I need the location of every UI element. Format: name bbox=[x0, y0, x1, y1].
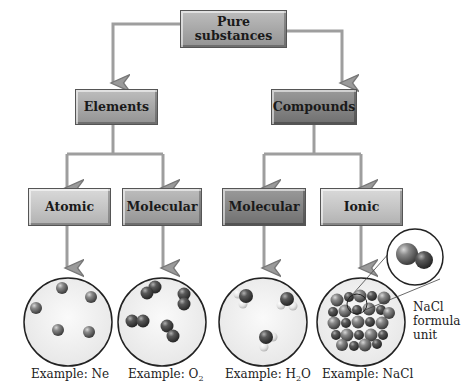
caption-prefix: Example: bbox=[31, 367, 92, 381]
atomic-example-illustration bbox=[24, 278, 112, 366]
example-o2-caption: Example: O2 bbox=[128, 367, 203, 383]
elements-label: Elements bbox=[84, 100, 149, 114]
inset-label-line2: formula bbox=[413, 314, 461, 328]
ionic-box: Ionic bbox=[320, 188, 403, 226]
molecular-elements-label: Molecular bbox=[126, 200, 197, 214]
caption-prefix: Example: bbox=[225, 367, 286, 381]
molecular-element-example-illustration bbox=[118, 278, 206, 366]
compounds-label: Compounds bbox=[273, 100, 356, 114]
caption-formula: O bbox=[189, 367, 199, 381]
pure-substances-label-line2: substances bbox=[195, 29, 272, 43]
arrow-root-to-elements bbox=[113, 24, 180, 83]
compounds-box: Compounds bbox=[271, 89, 357, 125]
caption-formula: H bbox=[286, 367, 296, 381]
inset-label-line1: NaCl bbox=[413, 300, 461, 314]
atomic-label: Atomic bbox=[45, 200, 94, 214]
example-ne-caption: Example: Ne bbox=[31, 367, 109, 381]
caption-formula: Ne bbox=[92, 367, 110, 381]
pure-substances-box: Pure substances bbox=[180, 10, 287, 48]
ionic-example-illustration bbox=[317, 229, 443, 366]
elements-box: Elements bbox=[75, 89, 158, 125]
caption-subscript: 2 bbox=[198, 374, 203, 383]
molecular-elements-box: Molecular bbox=[122, 188, 202, 226]
nacl-formula-unit-label: NaCl formula unit bbox=[413, 300, 461, 342]
molecular-compounds-label: Molecular bbox=[228, 200, 299, 214]
example-h2o-caption: Example: H2O bbox=[225, 367, 311, 383]
connectors bbox=[67, 24, 361, 268]
atomic-box: Atomic bbox=[28, 188, 111, 226]
inset-label-line3: unit bbox=[413, 328, 461, 342]
caption-prefix: Example: bbox=[322, 367, 383, 381]
caption-tail: O bbox=[301, 367, 311, 381]
example-nacl-caption: Example: NaCl bbox=[322, 367, 413, 381]
molecular-compounds-box: Molecular bbox=[222, 188, 306, 226]
caption-prefix: Example: bbox=[128, 367, 189, 381]
caption-formula: NaCl bbox=[383, 367, 414, 381]
ionic-label: Ionic bbox=[344, 200, 380, 214]
arrow-root-to-compounds bbox=[287, 31, 342, 83]
molecular-compound-example-illustration bbox=[219, 278, 307, 366]
pure-substances-label-line1: Pure bbox=[195, 15, 272, 29]
